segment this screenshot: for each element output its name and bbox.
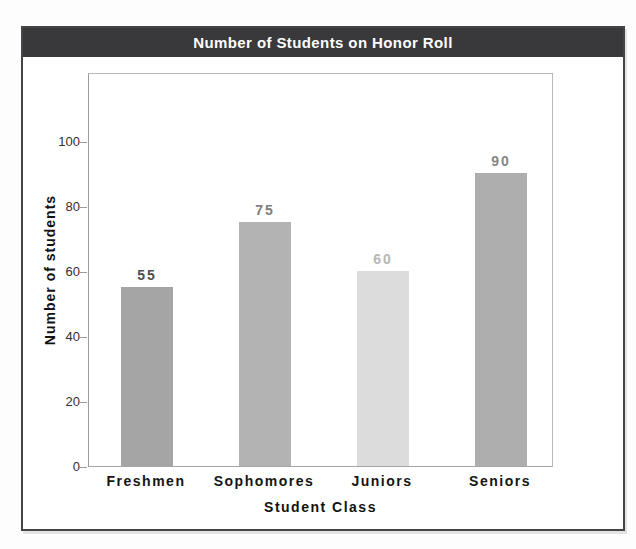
bar-value-sophomores: 75	[235, 202, 295, 218]
bar-value-juniors: 60	[353, 251, 413, 267]
bar-seniors	[475, 173, 527, 466]
y-tick-label-100: 100	[38, 134, 80, 149]
chart-title: Number of Students on Honor Roll	[23, 28, 623, 57]
y-tick-label-20: 20	[38, 394, 80, 409]
y-tick-mark	[80, 402, 87, 403]
chart-frame: Number of Students on Honor Roll Number …	[21, 26, 625, 531]
y-tick-label-40: 40	[38, 329, 80, 344]
y-tick-mark	[80, 272, 87, 273]
bar-value-seniors: 90	[471, 153, 531, 169]
x-category-label-seniors: Seniors	[435, 473, 565, 489]
y-tick-label-0: 0	[38, 459, 80, 474]
y-tick-mark	[80, 337, 87, 338]
y-tick-label-80: 80	[38, 199, 80, 214]
plot-area: 55756090	[88, 73, 553, 467]
bar-juniors	[357, 271, 409, 466]
x-axis-title: Student Class	[88, 499, 553, 515]
x-category-label-freshmen: Freshmen	[81, 473, 211, 489]
y-tick-mark	[80, 207, 87, 208]
y-tick-mark	[80, 142, 87, 143]
bar-value-freshmen: 55	[117, 267, 177, 283]
x-category-label-sophomores: Sophomores	[199, 473, 329, 489]
bar-sophomores	[239, 222, 291, 466]
x-category-label-juniors: Juniors	[317, 473, 447, 489]
bar-freshmen	[121, 287, 173, 466]
y-tick-mark	[80, 467, 87, 468]
y-tick-label-60: 60	[38, 264, 80, 279]
